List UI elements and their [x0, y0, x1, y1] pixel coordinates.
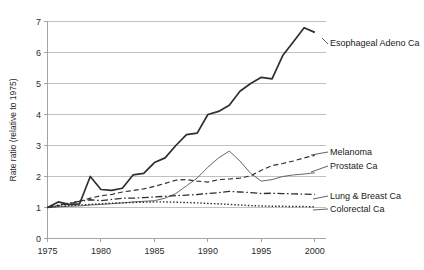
x-axis-tick-labels: 197519801985199019952000 [37, 246, 324, 256]
leader-line-colorectal [313, 209, 328, 210]
x-tick-label-2000: 2000 [305, 246, 325, 256]
x-tick-label-1985: 1985 [144, 246, 164, 256]
series-label-colorectal: Colorectal Ca [330, 204, 385, 214]
y-tick-label-3: 3 [36, 141, 41, 151]
y-axis-title-text: Rate ratio (relative to 1975) [8, 78, 18, 181]
series-label-lung-breast: Lung & Breast Ca [330, 191, 401, 201]
chart-container: 01234567 197519801985199019952000 Esopha… [0, 0, 424, 270]
leader-line-esophageal [322, 38, 328, 44]
x-tick-label-1980: 1980 [91, 246, 111, 256]
series-label-esophageal: Esophageal Adeno Ca [330, 38, 420, 48]
y-tick-label-6: 6 [36, 48, 41, 58]
axis-tickmarks [44, 22, 315, 243]
leader-line-lung-breast [313, 196, 328, 199]
y-tick-label-5: 5 [36, 79, 41, 89]
leader-line-prostate [311, 166, 328, 172]
x-tick-label-1990: 1990 [198, 246, 218, 256]
y-tick-label-0: 0 [36, 234, 41, 244]
line-chart: 01234567 197519801985199019952000 Esopha… [0, 0, 424, 270]
y-axis-title: Rate ratio (relative to 1975) [8, 78, 18, 181]
y-tick-label-7: 7 [36, 17, 41, 27]
series-line-colorectal-ca [48, 202, 315, 208]
series-lines [48, 28, 315, 208]
series-label-melanoma: Melanoma [330, 147, 372, 157]
y-tick-label-2: 2 [36, 172, 41, 182]
y-tick-label-4: 4 [36, 110, 41, 120]
x-tick-label-1995: 1995 [251, 246, 271, 256]
series-line-esophageal-adeno-ca [48, 28, 315, 208]
series-labels: Esophageal Adeno CaMelanomaProstate CaLu… [330, 38, 420, 214]
y-axis-tick-labels: 01234567 [36, 17, 41, 244]
label-leader-lines [311, 38, 328, 210]
series-label-prostate: Prostate Ca [330, 161, 378, 171]
y-tick-label-1: 1 [36, 203, 41, 213]
x-tick-label-1975: 1975 [37, 246, 57, 256]
leader-line-melanoma [311, 152, 328, 155]
